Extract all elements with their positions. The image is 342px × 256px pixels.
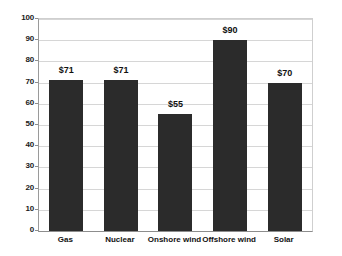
- bar-gas[interactable]: [49, 80, 83, 231]
- x-axis: GasNuclearOnshore windOffshore windSolar: [38, 235, 313, 249]
- y-tick-label-0: 0: [4, 226, 34, 234]
- y-tick-label-10: 10: [4, 205, 34, 213]
- bar-onshore-wind[interactable]: [158, 114, 192, 231]
- bar-slot: $71: [39, 19, 94, 231]
- bar-slot: $55: [148, 19, 203, 231]
- gridline-0: [39, 231, 312, 232]
- bar-slot: $71: [94, 19, 149, 231]
- bar-value-label: $55: [168, 100, 183, 109]
- y-tick-label-80: 80: [4, 56, 34, 64]
- y-tick-label-100: 100: [4, 14, 34, 22]
- y-axis: 0102030405060708090100: [0, 18, 34, 232]
- bar-slot: $70: [257, 19, 312, 231]
- bar-value-label: $71: [59, 66, 74, 75]
- bar-nuclear[interactable]: [104, 80, 138, 231]
- bar-solar[interactable]: [268, 83, 302, 231]
- y-tick-label-90: 90: [4, 35, 34, 43]
- y-tick-label-40: 40: [4, 141, 34, 149]
- bar-value-label: $71: [113, 66, 128, 75]
- y-tick-label-30: 30: [4, 162, 34, 170]
- x-category-label: Onshore wind: [147, 235, 202, 245]
- x-category-label: Solar: [256, 235, 311, 245]
- y-tick-label-50: 50: [4, 120, 34, 128]
- bar-value-label: $90: [223, 26, 238, 35]
- x-category-label: Gas: [38, 235, 93, 245]
- bar-chart: 0102030405060708090100 $71$71$55$90$70 G…: [0, 0, 342, 256]
- bar-slot: $90: [203, 19, 258, 231]
- x-category-label: Nuclear: [93, 235, 148, 245]
- x-category-label: Offshore wind: [202, 235, 257, 245]
- y-tick-label-60: 60: [4, 99, 34, 107]
- plot-area: $71$71$55$90$70: [38, 18, 313, 232]
- y-tick-label-70: 70: [4, 78, 34, 86]
- bar-offshore-wind[interactable]: [213, 40, 247, 231]
- y-tick-label-20: 20: [4, 184, 34, 192]
- bar-value-label: $70: [277, 69, 292, 78]
